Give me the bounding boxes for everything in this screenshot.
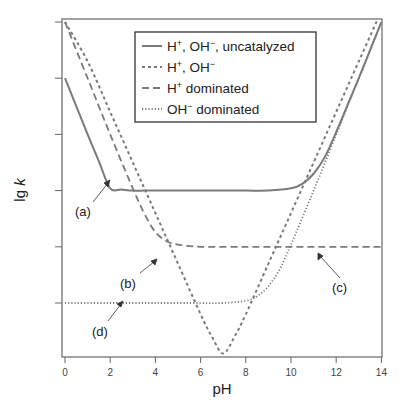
x-tick-label: 8 [243, 367, 249, 378]
legend: H+, OH−, uncatalyzedH+, OH−H+ dominatedO… [135, 32, 316, 122]
annotation-a: (a) [75, 204, 91, 219]
chart: 02468101214 pH lg k H+, OH−, uncatalyzed… [0, 0, 403, 410]
annotations [93, 180, 340, 321]
x-tick-label: 10 [285, 367, 297, 378]
annotation-c: (c) [332, 280, 347, 295]
x-tick-label: 14 [376, 367, 388, 378]
arrow-c [320, 256, 340, 278]
annotation-b: (b) [120, 276, 136, 291]
x-tick-label: 4 [153, 367, 159, 378]
x-tick-label: 2 [107, 367, 113, 378]
legend-label: H+, OH−, uncatalyzed [167, 38, 295, 54]
y-axis-ticks [55, 22, 62, 303]
x-axis-label: pH [212, 380, 231, 397]
x-axis-ticks: 02468101214 [62, 357, 387, 378]
arrowhead-icon [117, 301, 123, 307]
legend-label: H+, OH− [167, 59, 215, 75]
x-tick-label: 12 [331, 367, 343, 378]
x-tick-label: 0 [62, 367, 68, 378]
x-tick-label: 6 [198, 367, 204, 378]
legend-label: OH− dominated [167, 101, 259, 117]
arrowhead-icon [151, 259, 157, 265]
arrow-a [93, 183, 108, 202]
arrow-d [108, 304, 121, 321]
y-axis-label: lg k [11, 177, 28, 202]
annotation-d: (d) [92, 324, 108, 339]
